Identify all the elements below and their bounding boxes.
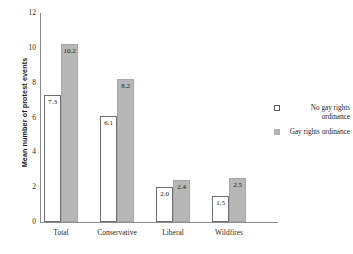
bar-value-label: 7.3 — [45, 99, 60, 106]
x-category-label: Wildfires — [189, 229, 269, 237]
bar: 6.1 — [100, 116, 117, 222]
legend-label: Gay rights ordinance — [283, 128, 350, 137]
y-tick-label: 6 — [6, 114, 36, 122]
y-tick-label: 0 — [6, 218, 36, 226]
bar-value-label: 1.5 — [213, 200, 228, 207]
legend-label: No gay rights ordinance — [283, 104, 350, 121]
bar: 1.5 — [212, 196, 229, 222]
bar-value-label: 2.5 — [230, 182, 245, 189]
bar-group: 1.52.5 — [212, 13, 246, 222]
x-axis-line — [40, 222, 278, 223]
y-tick-label: 2 — [6, 183, 36, 191]
bar-group: 7.310.2 — [44, 13, 78, 222]
bar: 8.2 — [117, 79, 134, 222]
y-axis-tick-labels: 024681012 — [0, 0, 36, 254]
legend-item[interactable]: Gay rights ordinance — [274, 128, 350, 137]
chart-legend: No gay rights ordinanceGay rights ordina… — [274, 104, 350, 144]
bar: 2.5 — [229, 178, 246, 222]
bar-value-label: 10.2 — [62, 48, 77, 55]
y-tick-label: 12 — [6, 9, 36, 17]
bar-group: 6.18.2 — [100, 13, 134, 222]
bar-value-label: 2.0 — [157, 191, 172, 198]
bar-value-label: 2.4 — [174, 184, 189, 191]
legend-item[interactable]: No gay rights ordinance — [274, 104, 350, 121]
bar: 10.2 — [61, 44, 78, 222]
bar-group: 2.02.4 — [156, 13, 190, 222]
bar-chart: Mean number of protest events 024681012 … — [0, 0, 353, 254]
bar: 2.4 — [173, 180, 190, 222]
legend-swatch-icon — [274, 105, 280, 111]
y-tick-label: 8 — [6, 79, 36, 87]
bar: 2.0 — [156, 187, 173, 222]
y-tick-label: 10 — [6, 44, 36, 52]
bar-value-label: 8.2 — [118, 83, 133, 90]
bar: 7.3 — [44, 95, 61, 222]
y-tick-label: 4 — [6, 148, 36, 156]
legend-swatch-icon — [274, 129, 280, 135]
plot-area: 7.310.26.18.22.02.41.52.5 — [41, 13, 278, 222]
bar-value-label: 6.1 — [101, 120, 116, 127]
